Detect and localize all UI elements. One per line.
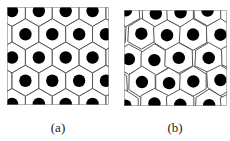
cell-center-dot: [173, 52, 185, 64]
cell-center-dot: [161, 29, 173, 41]
panel-a-caption: (a): [38, 120, 78, 136]
cell-center-dot: [33, 51, 45, 63]
cell-center-dot: [19, 75, 31, 87]
cell-center-dot: [46, 75, 58, 87]
cell-center-dot: [136, 76, 148, 88]
panel-b-caption: (b): [155, 120, 195, 136]
cell-center-dot: [148, 54, 160, 66]
cell-center-dot: [203, 52, 215, 64]
cell-center-dot: [214, 28, 226, 40]
cell-center-dot: [86, 51, 98, 63]
panel-a-regular-hexagonal-tiling: [7, 7, 109, 105]
hex-lattice-graphic: [7, 7, 109, 105]
panel-b-distorted-hexagonal-tiling: [124, 10, 227, 106]
cell-center-dot: [187, 28, 199, 40]
cell-center-dot: [46, 28, 58, 40]
cell-center-dot: [73, 75, 85, 87]
cell-center-dot: [214, 74, 226, 86]
distorted-lattice-graphic: [124, 10, 227, 106]
cell-center-dot: [163, 77, 175, 89]
cell-center-dot: [59, 51, 71, 63]
cell-center-dot: [135, 28, 147, 40]
cell-center-dot: [187, 75, 199, 87]
cell-center-dot: [19, 28, 31, 40]
cell-center-dot: [73, 28, 85, 40]
